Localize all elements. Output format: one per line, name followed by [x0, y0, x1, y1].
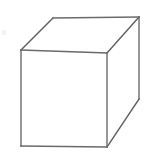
front-face: [21, 50, 107, 147]
cube-drawing: Cube wireframe line drawing: [0, 0, 150, 154]
front-bottom-edge: [21, 146, 107, 147]
figure-canvas: Cube wireframe line drawing: [0, 0, 150, 154]
top-back-edge: [53, 17, 139, 18]
